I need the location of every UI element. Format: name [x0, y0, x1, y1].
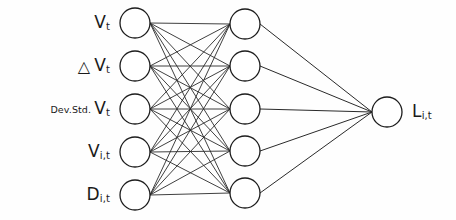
edge-h5-o1	[260, 112, 372, 193]
edge-i5-h4	[150, 151, 230, 195]
input-label-5-sub: i,t	[100, 193, 110, 204]
edge-h1-o1	[260, 24, 372, 112]
output-label-sub: i,t	[422, 110, 432, 121]
edges-input-to-hidden	[150, 23, 230, 195]
hidden-node-1[interactable]	[230, 9, 260, 39]
input-label-4: Vi,t	[0, 143, 110, 161]
hidden-node-5[interactable]	[230, 178, 260, 208]
output-node-1[interactable]	[372, 97, 402, 127]
edge-i5-h1	[150, 24, 230, 195]
neural-network-diagram: Vt △Vt Dev.Std.Vt Vi,t Di,t Li,t	[0, 0, 456, 220]
input-node-5[interactable]	[120, 180, 150, 210]
input-label-2-sub: t	[106, 64, 110, 75]
input-label-3: Dev.Std.Vt	[0, 100, 110, 118]
output-layer-nodes	[372, 97, 402, 127]
input-label-5: Di,t	[0, 186, 110, 204]
edge-i4-h1	[150, 24, 230, 152]
input-label-3-sub: t	[106, 107, 110, 118]
input-label-4-sub: i,t	[100, 150, 110, 161]
input-label-1-sub: t	[106, 21, 110, 32]
edge-i5-h5	[150, 193, 230, 195]
output-label: Li,t	[412, 103, 456, 121]
hidden-node-4[interactable]	[230, 136, 260, 166]
input-node-1[interactable]	[120, 8, 150, 38]
input-label-2-base: V	[94, 55, 106, 75]
edges-hidden-to-output	[260, 24, 372, 193]
input-node-2[interactable]	[120, 51, 150, 81]
hidden-node-3[interactable]	[230, 94, 260, 124]
hidden-node-2[interactable]	[230, 51, 260, 81]
output-label-base: L	[412, 101, 422, 121]
edge-i1-h1	[150, 23, 230, 24]
input-label-4-base: V	[88, 141, 100, 161]
input-layer-nodes	[120, 8, 150, 210]
input-label-1: Vt	[0, 14, 110, 32]
hidden-layer-nodes	[230, 9, 260, 208]
input-label-5-base: D	[87, 184, 100, 204]
input-label-1-base: V	[94, 12, 106, 32]
input-label-3-base: V	[94, 98, 106, 118]
input-node-3[interactable]	[120, 94, 150, 124]
edge-h2-o1	[260, 66, 372, 112]
edge-h3-o1	[260, 109, 372, 112]
delta-icon-2: △	[78, 57, 94, 76]
input-label-3-prefix: Dev.Std.	[50, 104, 94, 115]
edge-h4-o1	[260, 112, 372, 151]
input-node-4[interactable]	[120, 137, 150, 167]
input-label-2: △Vt	[0, 57, 110, 75]
